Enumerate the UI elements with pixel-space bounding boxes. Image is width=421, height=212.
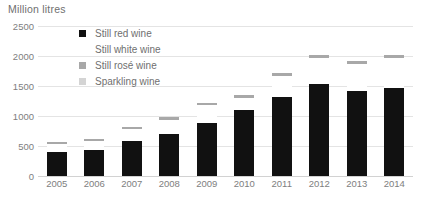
bar-segment-2007-series-2[interactable]	[122, 127, 142, 129]
square-marker-light-gray-icon	[79, 78, 86, 85]
bar-segment-2006-series-2[interactable]	[84, 139, 104, 141]
legend-item-0[interactable]: Still red wine	[79, 28, 161, 39]
bar-segment-2009-series-1[interactable]	[197, 105, 217, 123]
gridline-0	[38, 176, 413, 177]
legend-item-2[interactable]: Still rosé wine	[79, 60, 161, 71]
bar-segment-2005-series-0[interactable]	[47, 152, 67, 176]
chart-container: Million litres 25002000150010005000 2005…	[0, 0, 421, 212]
bar-slot-2009[interactable]	[188, 26, 226, 176]
bar-segment-2008-series-1[interactable]	[159, 120, 179, 134]
bar-stack-2010[interactable]	[234, 26, 254, 176]
legend-item-1[interactable]: Still white wine	[79, 44, 161, 55]
bar-segment-2012-series-0[interactable]	[309, 84, 329, 176]
bar-segment-2014-series-1[interactable]	[384, 58, 404, 88]
bar-segment-2006-series-1[interactable]	[84, 141, 104, 150]
bar-segment-2006-series-0[interactable]	[84, 150, 104, 176]
x-tick-2009: 2009	[188, 178, 226, 198]
bar-segment-2009-series-2[interactable]	[197, 103, 217, 106]
x-axis-tick-labels: 2005200620072008200920102011201220132014	[38, 178, 413, 198]
bar-segment-2009-series-0[interactable]	[197, 123, 217, 176]
bar-segment-2011-series-1[interactable]	[272, 76, 292, 96]
bar-segment-2013-series-2[interactable]	[347, 61, 367, 65]
bar-segment-2014-series-2[interactable]	[384, 55, 404, 59]
bar-stack-2008[interactable]	[159, 26, 179, 176]
bar-segment-2010-series-1[interactable]	[234, 98, 254, 110]
x-tick-2005: 2005	[38, 178, 76, 198]
y-axis-title: Million litres	[8, 3, 66, 15]
y-tick-500: 500	[0, 141, 34, 152]
x-tick-2014: 2014	[376, 178, 414, 198]
bar-slot-2013[interactable]	[338, 26, 376, 176]
bar-segment-2011-series-0[interactable]	[272, 97, 292, 176]
x-tick-2010: 2010	[226, 178, 264, 198]
y-tick-1500: 1500	[0, 81, 34, 92]
legend-label-2: Still rosé wine	[95, 60, 157, 71]
square-marker-gray-icon	[79, 62, 86, 69]
bar-slot-2012[interactable]	[301, 26, 339, 176]
y-tick-1000: 1000	[0, 111, 34, 122]
legend-label-3: Sparkling wine	[95, 76, 160, 87]
x-tick-2011: 2011	[263, 178, 301, 198]
bar-stack-2014[interactable]	[384, 26, 404, 176]
y-tick-0: 0	[0, 171, 34, 182]
bar-stack-2013[interactable]	[347, 26, 367, 176]
bar-segment-2005-series-1[interactable]	[47, 144, 67, 152]
bar-segment-2013-series-1[interactable]	[347, 64, 367, 90]
bar-segment-2012-series-1[interactable]	[309, 58, 329, 83]
chart-legend: Still red wineStill white wineStill rosé…	[79, 28, 161, 87]
bar-segment-2008-series-2[interactable]	[159, 117, 179, 119]
bar-stack-2005[interactable]	[47, 26, 67, 176]
bar-segment-2005-series-2[interactable]	[47, 142, 67, 144]
bar-segment-2007-series-0[interactable]	[122, 141, 142, 176]
y-axis-tick-labels: 25002000150010005000	[0, 26, 34, 176]
y-tick-2500: 2500	[0, 21, 34, 32]
bar-slot-2011[interactable]	[263, 26, 301, 176]
bar-slot-2014[interactable]	[376, 26, 414, 176]
bar-stack-2012[interactable]	[309, 26, 329, 176]
bar-segment-2011-series-2[interactable]	[272, 73, 292, 76]
x-tick-2007: 2007	[113, 178, 151, 198]
bar-segment-2014-series-0[interactable]	[384, 88, 404, 176]
bar-slot-2005[interactable]	[38, 26, 76, 176]
square-marker-black-icon	[79, 30, 86, 37]
bar-segment-2010-series-2[interactable]	[234, 95, 254, 98]
bar-segment-2013-series-0[interactable]	[347, 91, 367, 176]
x-tick-2008: 2008	[151, 178, 189, 198]
bar-stack-2011[interactable]	[272, 26, 292, 176]
bar-segment-2008-series-0[interactable]	[159, 134, 179, 176]
x-tick-2006: 2006	[76, 178, 114, 198]
bar-segment-2012-series-2[interactable]	[309, 55, 329, 59]
x-tick-2012: 2012	[301, 178, 339, 198]
legend-label-0: Still red wine	[95, 28, 152, 39]
bar-slot-2010[interactable]	[226, 26, 264, 176]
legend-label-1: Still white wine	[95, 44, 161, 55]
y-tick-2000: 2000	[0, 51, 34, 62]
square-marker-white-icon	[79, 46, 86, 53]
bar-segment-2007-series-1[interactable]	[122, 129, 142, 141]
bar-stack-2009[interactable]	[197, 26, 217, 176]
bar-segment-2010-series-0[interactable]	[234, 110, 254, 176]
legend-item-3[interactable]: Sparkling wine	[79, 76, 161, 87]
x-tick-2013: 2013	[338, 178, 376, 198]
